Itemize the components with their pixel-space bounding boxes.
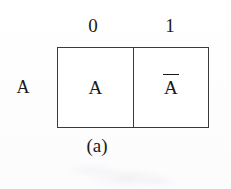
kmap-box: A A [57, 47, 209, 128]
kmap-cell-right: A [134, 48, 209, 127]
figure-root: 0 1 A A A (a) [0, 0, 231, 189]
column-header-1: 1 [155, 14, 185, 38]
column-header-0: 0 [78, 14, 108, 38]
row-label-a: A [8, 76, 38, 98]
kmap-cell-left-value: A [88, 78, 102, 97]
figure-caption: (a) [62, 134, 132, 158]
kmap-cell-left: A [58, 48, 134, 127]
kmap-cell-right-value-complement: A [163, 78, 179, 97]
